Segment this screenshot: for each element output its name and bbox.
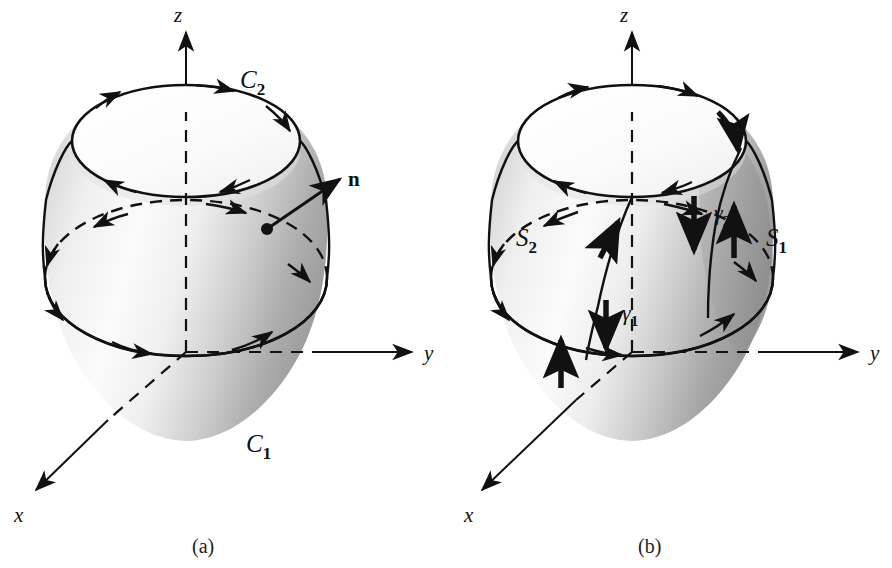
panel-b: z y x S1 S2 γ1 γ2 (b) [463, 3, 880, 558]
figure-root: z y x C2 C1 n (a) [0, 0, 892, 568]
axis-label-y-b: y [868, 341, 880, 365]
caption-panel-b: (b) [638, 535, 661, 558]
axis-label-x-a: x [13, 503, 24, 527]
figure-canvas: z y x C2 C1 n (a) [0, 0, 892, 568]
label-curve-c1: C1 [246, 430, 271, 463]
axis-label-z-b: z [619, 3, 628, 27]
axis-label-z-a: z [173, 3, 182, 27]
panel-a: z y x C2 C1 n (a) [13, 3, 434, 558]
axis-label-x-b: x [463, 503, 474, 527]
axis-label-y-a: y [422, 341, 434, 365]
axis-x-b [482, 400, 576, 490]
axis-x-a [36, 420, 108, 490]
label-normal-vector: n [348, 167, 360, 191]
caption-panel-a: (a) [192, 535, 214, 558]
